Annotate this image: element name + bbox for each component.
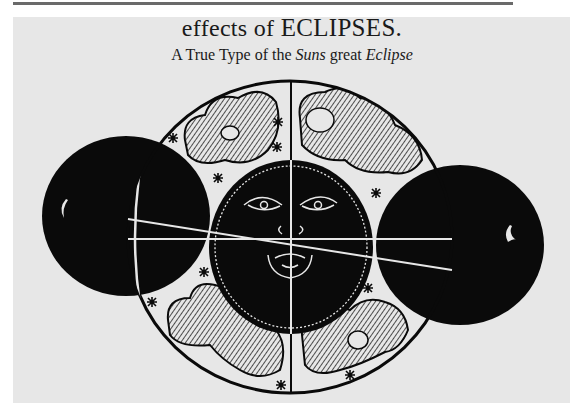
star-icon	[199, 267, 209, 277]
star-icon	[168, 133, 178, 143]
star-icon	[213, 173, 223, 183]
eclipse-woodcut	[0, 0, 584, 414]
star-icon	[147, 297, 157, 307]
star-icon	[371, 188, 381, 198]
star-icon	[345, 370, 355, 380]
star-icon	[276, 380, 286, 390]
star-icon	[273, 117, 283, 127]
star-icon	[272, 142, 282, 152]
cloud-top-left	[185, 92, 279, 163]
